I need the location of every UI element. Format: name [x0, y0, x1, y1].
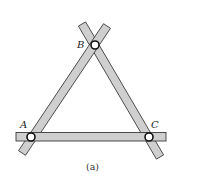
label-c: C [151, 119, 159, 130]
label-b: B [76, 39, 84, 50]
pin-b [91, 41, 99, 49]
pin-a [27, 133, 35, 141]
pin-c [145, 133, 153, 141]
bar-ac [16, 133, 166, 142]
frame-diagram: B A C (a) [0, 0, 199, 184]
label-a: A [19, 119, 27, 130]
figure-caption: (a) [86, 161, 99, 172]
